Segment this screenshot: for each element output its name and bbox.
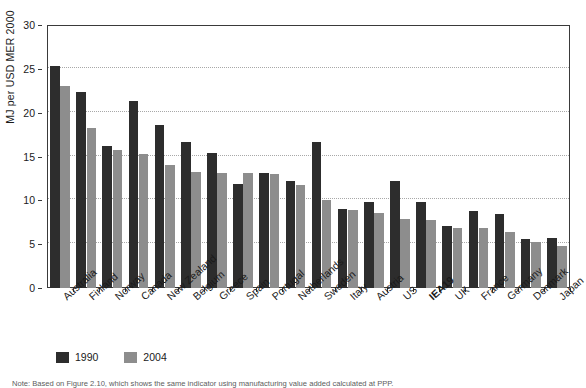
gridline [48, 111, 569, 112]
legend-swatch [56, 352, 69, 363]
y-tick-mark [38, 25, 42, 26]
legend-label: 2004 [143, 352, 166, 363]
y-tick-mark [38, 113, 42, 114]
gridline [48, 242, 569, 243]
gridline [48, 155, 569, 156]
plot-area [47, 25, 570, 288]
y-tick-label: 20 [23, 107, 35, 118]
legend: 19902004 [56, 352, 167, 363]
legend-entry: 1990 [56, 352, 98, 363]
footnote: Note: Based on Figure 2.10, which shows … [12, 379, 578, 388]
y-tick-mark [38, 200, 42, 201]
gridline [48, 67, 569, 68]
gridlines [48, 26, 569, 287]
y-tick-label: 5 [29, 239, 35, 250]
legend-entry: 2004 [124, 352, 166, 363]
y-axis-tick-labels: 051015202530 [0, 25, 42, 288]
y-tick-label: 25 [23, 64, 35, 75]
y-tick-mark [38, 244, 42, 245]
legend-label: 1990 [75, 352, 98, 363]
y-tick-mark [38, 157, 42, 158]
y-tick-label: 10 [23, 195, 35, 206]
y-tick-label: 15 [23, 151, 35, 162]
y-tick-mark [38, 69, 42, 70]
gridline [48, 198, 569, 199]
legend-swatch [124, 352, 137, 363]
x-axis-tick-labels: AustraliaFinlandNorwayCanadaNew ZealandB… [0, 288, 586, 346]
y-tick-label: 30 [23, 20, 35, 31]
